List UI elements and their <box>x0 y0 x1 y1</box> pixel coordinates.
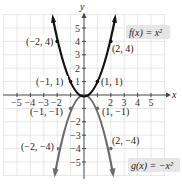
svg-text:3: 3 <box>75 49 80 60</box>
svg-text:5: 5 <box>75 23 80 34</box>
svg-text:−4: −4 <box>70 143 81 154</box>
point-label: (−2, 4) <box>26 36 53 48</box>
svg-text:−2: −2 <box>70 116 81 127</box>
svg-text:4: 4 <box>135 97 140 108</box>
svg-text:5: 5 <box>149 97 154 108</box>
svg-text:4: 4 <box>75 36 80 47</box>
y-axis-label: y <box>79 1 85 12</box>
parabola-chart: x y −5 −4 −3 −2 2 3 4 5 5 4 3 2 1 −2 −3 … <box>0 0 182 184</box>
g-function-label: g(x) = −x² <box>131 160 174 172</box>
svg-text:−5: −5 <box>11 97 22 108</box>
svg-text:−5: −5 <box>70 157 81 168</box>
point-label: (−1, −1) <box>30 106 63 118</box>
point-label: (−2, −4) <box>21 141 54 153</box>
x-axis-label: x <box>171 89 177 100</box>
svg-text:2: 2 <box>75 63 80 74</box>
point-label: (1, −1) <box>102 106 129 118</box>
point-label: (1, 1) <box>101 76 123 88</box>
point-label: (−1, 1) <box>36 76 63 88</box>
point-label: (2, −4) <box>112 135 139 147</box>
svg-text:1: 1 <box>75 76 80 87</box>
svg-text:−3: −3 <box>70 130 81 141</box>
f-function-label: f(x) = x² <box>129 27 163 39</box>
point-label: (2, 4) <box>112 43 134 55</box>
